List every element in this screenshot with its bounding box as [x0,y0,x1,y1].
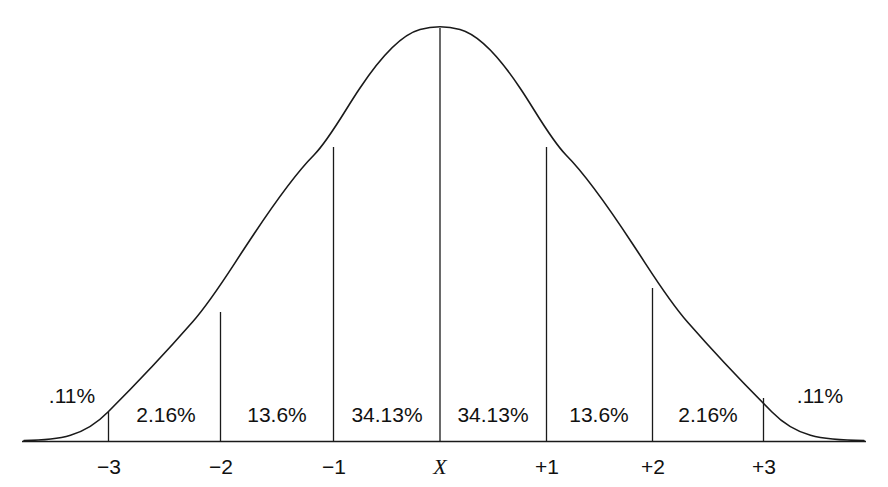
band-label-plus2-plus3: 2.16% [659,403,757,427]
band-label-above-plus3: .11% [770,384,870,408]
axis-tick-plus1: +1 [507,455,587,479]
bell-curve-path [24,27,864,441]
band-label-below-minus3: .11% [22,384,122,408]
axis-tick-minus3: −3 [69,455,149,479]
band-label-minus1-mean: 34.13% [337,403,437,427]
axis-tick-plus3: +3 [724,455,804,479]
axis-tick-minus2: −2 [181,455,261,479]
band-label-mean-plus1: 34.13% [443,403,543,427]
band-label-minus3-minus2: 2.16% [116,403,216,427]
band-label-minus2-minus1: 13.6% [227,403,327,427]
normal-curve-figure: .11% 2.16% 13.6% 34.13% 34.13% 13.6% 2.1… [0,0,888,487]
axis-tick-minus1: −1 [294,455,374,479]
axis-tick-mean: X [400,454,480,480]
band-label-plus1-plus2: 13.6% [553,403,645,427]
axis-tick-plus2: +2 [613,455,693,479]
